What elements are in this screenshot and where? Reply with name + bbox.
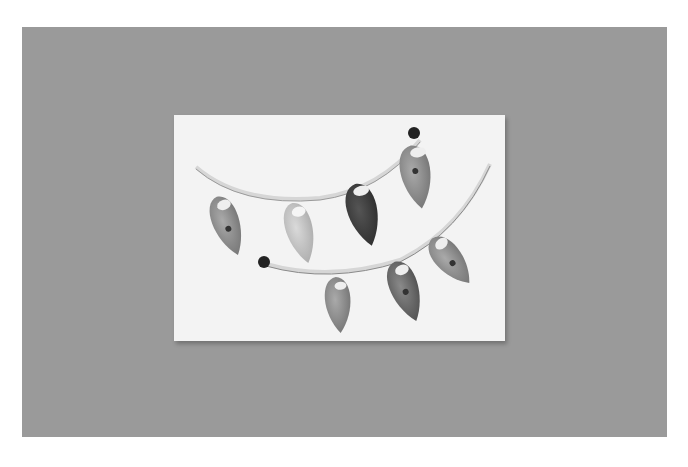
upper-branch: [196, 140, 420, 199]
leaf: [381, 257, 429, 326]
leaf: [204, 192, 251, 259]
leaf: [279, 200, 321, 267]
quilling-artwork: [0, 0, 688, 467]
leaf: [323, 276, 353, 334]
bead-top: [408, 127, 420, 139]
leaf: [396, 143, 437, 211]
bead-left: [258, 256, 270, 268]
